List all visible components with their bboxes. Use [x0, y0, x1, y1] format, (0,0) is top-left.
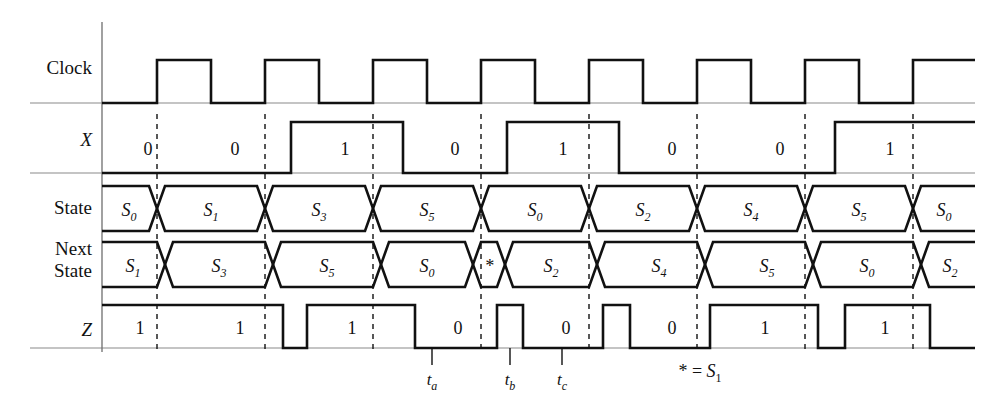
z-value-label-6: 0 [668, 318, 677, 338]
timing-diagram-canvas: 0010100111100011S0S1S3S5S0S2S4S5S0S1S3S5… [0, 0, 1008, 407]
z-value-label-4: 0 [454, 318, 463, 338]
x-value-label-2: 0 [231, 139, 240, 159]
next_state-value-6: S2 [544, 256, 559, 280]
time-marker-label-tc: tc [557, 370, 568, 393]
x-value-label-1: 0 [144, 139, 153, 159]
star-legend-note: * = S1 [678, 361, 721, 385]
clock-edge-gridlines [157, 114, 913, 352]
time-markers-layer: tatbtc [427, 348, 568, 393]
x-value-label-5: 1 [559, 139, 568, 159]
state-value-5: S0 [528, 200, 543, 224]
next_state-value-10: S2 [943, 256, 958, 280]
next_state-value-7: S4 [652, 256, 667, 280]
z-value-label-8: 1 [881, 318, 890, 338]
z-value-label-3: 1 [348, 318, 357, 338]
annotations-layer: * = S1 [678, 361, 721, 385]
next-state-waveform-lower-strand [102, 242, 975, 287]
next_state-value-3: S5 [320, 256, 335, 280]
row-label-next-state-line1: Next [55, 238, 93, 259]
state-value-7: S4 [744, 200, 759, 224]
state-value-3: S3 [312, 200, 327, 224]
state-value-4: S5 [420, 200, 435, 224]
state-value-9: S0 [937, 200, 952, 224]
state-value-2: S1 [204, 200, 219, 224]
row-label-z: Z [81, 319, 92, 340]
row-labels-layer: ClockXStateNextStateZ [47, 57, 94, 340]
z-value-label-2: 1 [236, 318, 245, 338]
state-value-6: S2 [636, 200, 651, 224]
next-state-waveform-upper-strand [102, 242, 975, 287]
x-value-label-4: 0 [451, 139, 460, 159]
state-value-1: S0 [122, 200, 137, 224]
row-label-clock: Clock [47, 57, 93, 78]
state-value-8: S5 [852, 200, 867, 224]
next_state-value-2: S3 [212, 256, 227, 280]
next_state-value-9: S0 [860, 256, 875, 280]
x-value-label-6: 0 [668, 139, 677, 159]
row-label-state: State [54, 197, 92, 218]
x-value-label-7: 0 [776, 139, 785, 159]
time-marker-label-tb: tb [505, 370, 516, 393]
row-label-x: X [79, 129, 93, 150]
x-value-label-8: 1 [886, 139, 895, 159]
x-value-label-3: 1 [341, 139, 350, 159]
row-label-next-state-line2: State [54, 260, 92, 281]
next_state-value-5: * [485, 256, 494, 276]
z-value-label-5: 0 [562, 318, 571, 338]
timing-diagram-figure: 0010100111100011S0S1S3S5S0S2S4S5S0S1S3S5… [0, 0, 1008, 407]
next_state-value-1: S1 [126, 256, 141, 280]
baselines-layer [30, 103, 975, 348]
clock-waveform [102, 60, 975, 103]
next_state-value-4: S0 [420, 256, 435, 280]
state-waveform-upper-strand [102, 186, 975, 231]
z-value-label-7: 1 [761, 318, 770, 338]
time-marker-label-ta: ta [427, 370, 438, 393]
next_state-value-8: S5 [760, 256, 775, 280]
z-waveform [102, 305, 975, 348]
value-labels-layer: 0010100111100011S0S1S3S5S0S2S4S5S0S1S3S5… [122, 139, 958, 338]
state-waveform-lower-strand [102, 186, 975, 231]
z-value-label-1: 1 [136, 318, 145, 338]
